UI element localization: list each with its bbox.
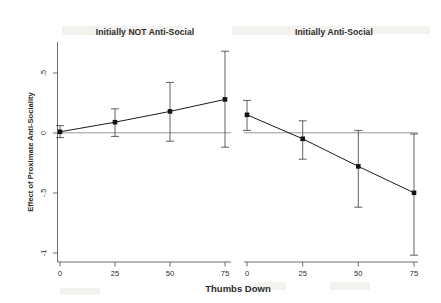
x-tick-label-right-1: 25: [298, 269, 306, 278]
chart-figure: Initially NOT Anti-Social Initially Anti…: [0, 0, 441, 303]
x-tick-label-right-2: 50: [354, 269, 362, 278]
data-point-right-0: [245, 113, 250, 118]
y-axis-title: Effect of Proximate Anti-Sociality: [26, 91, 35, 211]
y-tick-label-0: .5: [39, 70, 48, 76]
data-point-right-2: [356, 164, 361, 169]
x-tick-label-left-2: 50: [166, 269, 174, 278]
y-tick-label-1: 0: [39, 131, 48, 135]
x-tick-label-right-0: 0: [245, 269, 249, 278]
data-point-left-3: [223, 97, 228, 102]
y-tick-label-2: -.5: [39, 189, 48, 198]
y-tick-label-3: -1: [39, 250, 48, 257]
panel-title-left: Initially NOT Anti-Social: [96, 27, 195, 37]
x-tick-label-left-0: 0: [58, 269, 62, 278]
figure-background: [0, 0, 441, 303]
x-tick-label-left-3: 75: [221, 269, 229, 278]
data-point-right-3: [412, 191, 417, 196]
panel-title-right: Initially Anti-Social: [295, 27, 373, 37]
x-axis-title: Thumbs Down: [205, 283, 271, 294]
data-point-left-2: [168, 109, 173, 114]
data-point-right-1: [300, 137, 305, 142]
data-point-left-0: [58, 130, 63, 135]
data-point-left-1: [113, 120, 118, 125]
x-tick-label-left-1: 25: [111, 269, 119, 278]
x-tick-label-right-3: 75: [410, 269, 418, 278]
